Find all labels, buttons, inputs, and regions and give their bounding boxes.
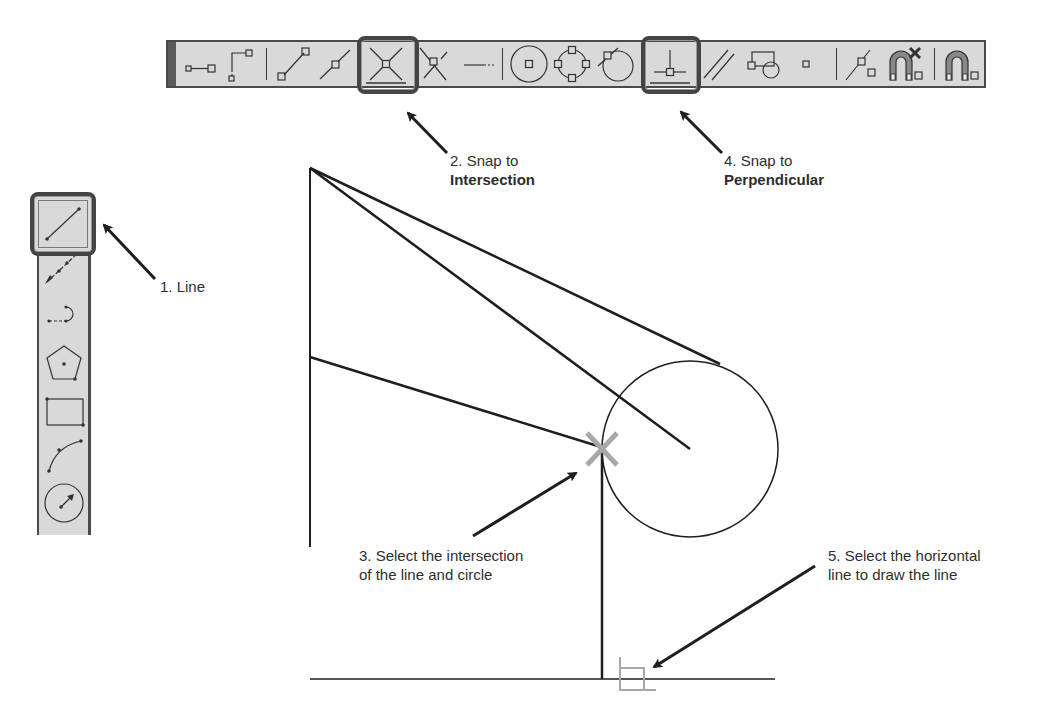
callout-step5: 5. Select the horizontal line to draw th…: [828, 546, 981, 584]
drawing-canvas[interactable]: [0, 0, 1048, 722]
callout-step5-line2: line to draw the line: [828, 565, 981, 584]
callout-step4-line2: Perpendicular: [724, 171, 824, 188]
arrow-step2: [408, 113, 447, 153]
callout-step4: 4. Snap to Perpendicular: [724, 151, 824, 189]
arrow-step5: [654, 566, 815, 667]
callout-step1: 1. Line: [160, 277, 205, 296]
callout-step3-line2: of the line and circle: [359, 565, 523, 584]
callout-step2-line2: Intersection: [450, 171, 535, 188]
perpendicular-snap-marker: [620, 657, 656, 690]
arrow-step1: [104, 225, 155, 279]
arrow-step3: [473, 473, 576, 536]
center-line: [310, 168, 690, 449]
callout-step5-line1: 5. Select the horizontal: [828, 546, 981, 565]
lower-line: [310, 357, 601, 447]
arrow-step4: [681, 112, 722, 153]
callout-step2: 2. Snap to Intersection: [450, 151, 535, 189]
callout-step3: 3. Select the intersection of the line a…: [359, 546, 523, 584]
callout-step4-line1: 4. Snap to: [724, 151, 824, 170]
upper-tangent-line: [310, 168, 720, 364]
callout-step2-line1: 2. Snap to: [450, 151, 535, 170]
callout-step1-text: 1. Line: [160, 278, 205, 295]
callout-step3-line1: 3. Select the intersection: [359, 546, 523, 565]
